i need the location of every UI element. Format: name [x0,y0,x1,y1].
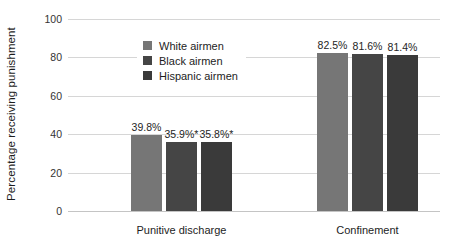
bar-value-label: 35.8%* [200,128,234,140]
bar: 81.4% [387,55,418,211]
legend: White airmenBlack airmenHispanic airmen [137,33,246,88]
bar-value-label: 35.9%* [165,128,199,140]
x-axis-category-label: Punitive discharge [137,224,227,236]
gridline [68,96,440,97]
y-axis-tick-label: 100 [44,13,62,25]
bar: 35.9%* [166,142,197,211]
plot-area: 020406080100 39.8%35.9%*35.8%*82.5%81.6%… [68,19,440,211]
legend-swatch-icon [143,41,152,50]
y-axis-tick-label: 60 [50,90,62,102]
bar: 82.5% [317,53,348,211]
legend-item-label: White airmen [159,40,224,52]
legend-swatch-icon [143,71,152,80]
legend-swatch-icon [143,56,152,65]
y-axis-title: Percentage receiving punishment [0,0,22,228]
bar-chart-figure: Percentage receiving punishment 02040608… [0,0,453,252]
x-axis-category-label: Confinement [336,224,398,236]
y-axis-title-text: Percentage receiving punishment [5,27,17,201]
y-axis-tick-label: 0 [56,205,62,217]
legend-item-label: Hispanic airmen [159,70,238,82]
gridline [68,19,440,20]
bar: 35.8%* [201,142,232,211]
legend-item[interactable]: Hispanic airmen [143,68,238,83]
legend-item[interactable]: Black airmen [143,53,238,68]
bar: 39.8% [131,135,162,211]
bar-value-label: 81.6% [353,40,383,52]
gridline [68,211,440,212]
bar-value-label: 81.4% [388,41,418,53]
y-axis-tick-label: 80 [50,51,62,63]
gridline [68,134,440,135]
y-axis-tick-label: 40 [50,128,62,140]
legend-item[interactable]: White airmen [143,38,238,53]
legend-item-label: Black airmen [159,55,223,67]
gridline [68,173,440,174]
gridline [68,57,440,58]
bar-value-label: 39.8% [132,121,162,133]
bar: 81.6% [352,54,383,211]
y-axis-tick-label: 20 [50,167,62,179]
bar-value-label: 82.5% [318,39,348,51]
